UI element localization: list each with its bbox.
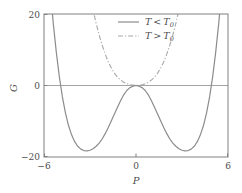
y-axis-title: G (8, 84, 19, 92)
xtick-label-mid: 0 (133, 161, 139, 171)
chart-background (0, 0, 242, 193)
xtick-label-left: −6 (37, 161, 51, 171)
ytick-label-zero: 0 (34, 81, 40, 91)
figure-container: 20 0 −20 −6 0 6 P G T<T0 T>T0 (0, 0, 242, 193)
landau-free-energy-chart: 20 0 −20 −6 0 6 P G T<T0 T>T0 (0, 0, 242, 193)
x-axis-title: P (132, 175, 140, 186)
xtick-label-right: 6 (225, 161, 231, 171)
ytick-label-top: 20 (29, 10, 41, 20)
